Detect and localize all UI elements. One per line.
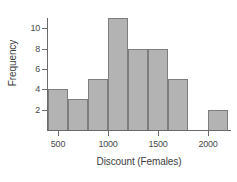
histogram-bar [108, 18, 128, 131]
histogram-bar [148, 49, 168, 131]
y-axis-tick-label: 8 [18, 45, 40, 54]
y-axis-line [47, 18, 48, 131]
histogram-bar [168, 79, 188, 131]
x-axis-tick-label: 1500 [138, 139, 178, 149]
histogram-bar [88, 79, 108, 131]
x-axis-tick-label: 2000 [188, 139, 228, 149]
histogram-plot: 2 4 6 8 10 500 1000 1500 2000 Discount (… [0, 0, 237, 182]
y-axis-title: Frequency [7, 28, 19, 98]
x-axis-title: Discount (Females) [47, 156, 231, 168]
y-axis-tick-label: 4 [18, 85, 40, 94]
histogram-bar [128, 49, 148, 131]
x-axis-tick [58, 131, 59, 136]
x-axis-tick [208, 131, 209, 136]
y-axis-tick [42, 28, 47, 29]
y-axis-tick-label: 2 [18, 106, 40, 115]
y-axis-tick-label: 10 [18, 24, 40, 33]
x-axis-line [47, 130, 231, 131]
histogram-bar [48, 89, 68, 131]
x-axis-tick-label: 500 [38, 139, 78, 149]
y-axis-tick [42, 89, 47, 90]
y-axis-tick [42, 110, 47, 111]
y-axis-tick [42, 49, 47, 50]
histogram-bar [68, 99, 88, 131]
histogram-screenshot: 2 4 6 8 10 500 1000 1500 2000 Discount (… [0, 0, 237, 182]
y-axis-tick-label: 6 [18, 65, 40, 74]
x-axis-tick [158, 131, 159, 136]
x-axis-tick-label: 1000 [88, 139, 128, 149]
histogram-bar [208, 110, 228, 131]
x-axis-tick [108, 131, 109, 136]
y-axis-tick [42, 69, 47, 70]
